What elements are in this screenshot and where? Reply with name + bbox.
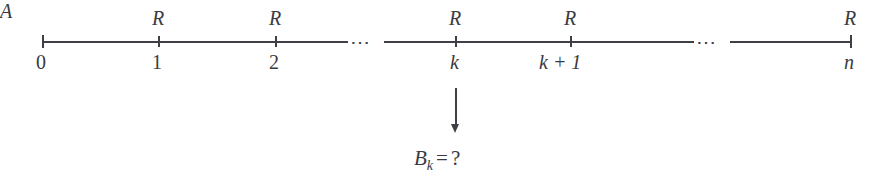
edge-label-R-k-plus-1: R	[564, 8, 576, 28]
node-label-1: 1	[152, 52, 162, 72]
tick-1	[158, 36, 160, 47]
axis-segment-right	[730, 41, 851, 43]
pointer-arrow-shaft	[455, 88, 457, 126]
edge-label-R-n: R	[844, 8, 856, 28]
node-label-k: k	[450, 52, 459, 72]
ellipsis-left: ⋯	[350, 30, 372, 54]
tick-k	[455, 36, 457, 47]
edge-label-R-2: R	[269, 8, 281, 28]
answer-base: B	[414, 146, 427, 170]
answer-expression: Bk=?	[414, 146, 460, 174]
node-label-k-plus-1: k + 1	[539, 52, 581, 72]
tick-0	[42, 35, 44, 48]
tick-2	[275, 36, 277, 47]
ellipsis-right: ⋯	[696, 30, 718, 54]
tick-n	[850, 35, 852, 48]
tick-k-plus-1	[570, 36, 572, 47]
answer-equals: =	[433, 146, 451, 170]
axis-segment-left	[42, 41, 348, 43]
module-label-A: A	[0, 0, 896, 23]
edge-label-R-1: R	[152, 8, 164, 28]
node-label-2: 2	[269, 52, 279, 72]
node-label-n: n	[844, 52, 854, 72]
answer-value: ?	[451, 146, 460, 170]
axis-segment-middle	[384, 41, 694, 43]
node-label-0: 0	[36, 52, 46, 72]
number-line-diagram: R R R R R 0 1 2 k k + 1 n ⋯ ⋯ A Bk=?	[0, 0, 896, 182]
edge-label-R-k: R	[449, 8, 461, 28]
pointer-arrow-head	[451, 124, 459, 133]
